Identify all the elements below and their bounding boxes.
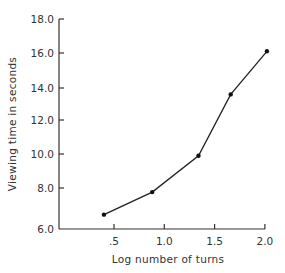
line-chart: 6.08.010.012.014.016.018.0 .51.01.52.0 V… bbox=[0, 0, 285, 273]
x-tick-label: 2.0 bbox=[257, 235, 274, 247]
y-tick-label: 10.0 bbox=[31, 148, 54, 160]
data-point-marker bbox=[265, 49, 269, 53]
y-tick-label: 14.0 bbox=[31, 82, 54, 94]
y-tick-label: 6.0 bbox=[37, 223, 54, 235]
y-tick-label: 16.0 bbox=[31, 47, 54, 59]
x-axis: .51.01.52.0 bbox=[59, 224, 273, 247]
x-tick-label: .5 bbox=[109, 235, 119, 247]
data-point-marker bbox=[228, 92, 232, 96]
y-tick-label: 12.0 bbox=[31, 114, 54, 126]
y-tick-label: 8.0 bbox=[37, 182, 54, 194]
x-tick-label: 1.0 bbox=[156, 235, 173, 247]
data-point-marker bbox=[102, 212, 106, 216]
x-tick-label: 1.5 bbox=[206, 235, 223, 247]
data-point-marker bbox=[150, 190, 154, 194]
x-axis-title: Log number of turns bbox=[112, 253, 225, 265]
y-axis-title: Viewing time in seconds bbox=[6, 57, 18, 191]
y-axis: 6.08.010.012.014.016.018.0 bbox=[31, 13, 64, 235]
data-series bbox=[102, 49, 269, 217]
data-point-marker bbox=[196, 154, 200, 158]
series-line bbox=[104, 51, 267, 214]
y-tick-label: 18.0 bbox=[31, 13, 54, 25]
